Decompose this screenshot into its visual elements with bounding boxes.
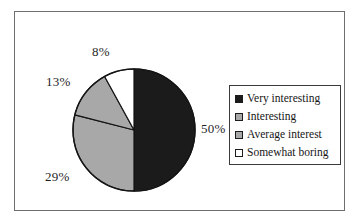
legend-swatch-icon	[235, 149, 243, 157]
figure-border: 8% 13% 29% 50% Very interesting Interest…	[14, 11, 345, 211]
pie-slice	[134, 69, 195, 191]
pie-label-interesting: 29%	[45, 170, 69, 183]
legend-item-very-interesting: Very interesting	[235, 90, 336, 107]
legend-swatch-icon	[235, 95, 243, 103]
pie-label-average-interest: 13%	[46, 75, 70, 88]
legend-item-label: Very interesting	[247, 93, 320, 105]
pie-label-somewhat-boring: 8%	[92, 45, 110, 58]
pie-chart-figure: 8% 13% 29% 50% Very interesting Interest…	[0, 0, 359, 223]
legend-item-label: Interesting	[247, 111, 296, 123]
legend-swatch-icon	[235, 131, 243, 139]
legend-item-label: Somewhat boring	[247, 147, 328, 159]
legend-item-interesting: Interesting	[235, 108, 336, 125]
legend-item-average-interest: Average interest	[235, 126, 336, 143]
pie-label-very-interesting: 50%	[201, 122, 225, 135]
legend: Very interesting Interesting Average int…	[229, 85, 341, 165]
legend-item-somewhat-boring: Somewhat boring	[235, 144, 336, 161]
pie-chart	[72, 68, 196, 192]
legend-item-label: Average interest	[247, 129, 322, 141]
legend-swatch-icon	[235, 113, 243, 121]
pie-svg	[72, 68, 196, 192]
